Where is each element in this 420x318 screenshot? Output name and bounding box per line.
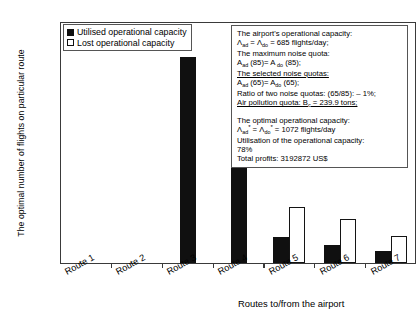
- info-line: The selected noise quotas:: [237, 69, 403, 78]
- x-tick-mark: [213, 264, 214, 268]
- legend-swatch-filled-icon: [67, 29, 74, 36]
- x-tick-mark: [111, 264, 112, 268]
- info-annotation-box: The airport's operational capacity: Λad …: [231, 25, 408, 168]
- legend-swatch-hollow-icon: [67, 39, 74, 46]
- info-line: Λad* = Λdo* = 1072 flights/day: [237, 125, 403, 135]
- x-tick-mark: [365, 264, 366, 268]
- x-tick-mark: [162, 264, 163, 268]
- bar: [180, 57, 196, 263]
- info-line: Utilisation of the operational capacity:: [237, 136, 403, 145]
- info-line: Aad (65)= Ado (65);: [237, 78, 403, 88]
- legend-item-label: Lost operational capacity: [77, 38, 174, 49]
- y-axis-title: The optimal number of flights on particu…: [16, 18, 26, 268]
- info-line: [237, 109, 403, 116]
- x-tick-mark: [263, 264, 264, 268]
- info-line: Total profits: 3192872 US$: [237, 154, 403, 163]
- info-line: Aad (85)= A do (85);: [237, 58, 403, 68]
- chart-legend: Utilised operational capacityLost operat…: [63, 24, 192, 51]
- legend-item-label: Utilised operational capacity: [77, 27, 187, 38]
- x-tick-mark: [314, 264, 315, 268]
- info-line: 78%: [237, 145, 403, 154]
- info-line: The airport's operational capacity:: [237, 29, 403, 38]
- info-line: Ratio of two noise quotas: (65/85): – 1%…: [237, 89, 403, 98]
- info-line: The maximum noise quota:: [237, 49, 403, 58]
- bar-chart: The optimal number of flights on particu…: [0, 0, 420, 318]
- legend-item: Utilised operational capacity: [67, 27, 187, 38]
- info-line: Air pollution quota: Bc = 239.9 tons;: [237, 98, 403, 108]
- info-line: The optimal operational capacity:: [237, 116, 403, 125]
- legend-item: Lost operational capacity: [67, 38, 187, 49]
- info-line: Λad = Λdo = 685 flights/day;: [237, 38, 403, 48]
- x-axis-title: Routes to/from the airport: [238, 298, 344, 309]
